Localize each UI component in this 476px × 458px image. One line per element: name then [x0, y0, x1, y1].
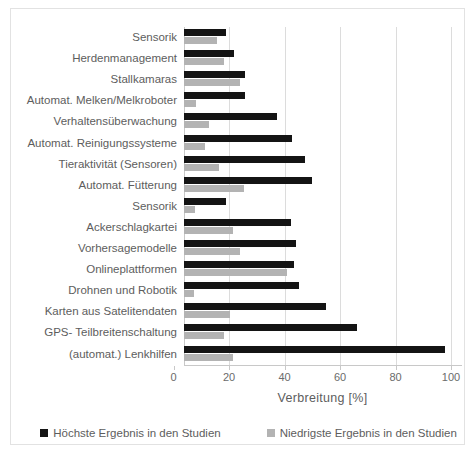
- category-label: Sensorik: [12, 196, 177, 217]
- bar-row: Stallkamaras: [11, 69, 476, 90]
- category-label: Onlineplattformen: [12, 259, 177, 280]
- chart-frame: SensorikHerdenmanagementStallkamarasAuto…: [10, 8, 465, 445]
- category-label: Tieraktivität (Sensoren): [12, 154, 177, 175]
- bar-lowest: [184, 290, 194, 297]
- bar-row: Karten aus Satelitendaten: [11, 301, 476, 322]
- chart-legend: Höchste Ergebnis in den StudienNiedrigst…: [21, 427, 476, 439]
- bar-lowest: [184, 185, 244, 192]
- bar-highest: [184, 198, 226, 205]
- bar-row: Drohnen und Robotik: [11, 280, 476, 301]
- x-axis-line: [184, 365, 462, 366]
- bar-row: Sensorik: [11, 27, 476, 48]
- category-label: GPS- Teilbreitenschaltung: [12, 322, 177, 343]
- bar-row: Verhaltensüberwachung: [11, 111, 476, 132]
- bar-highest: [184, 177, 312, 184]
- x-tick-label: 20: [223, 371, 235, 383]
- category-label: Karten aus Satelitendaten: [12, 301, 177, 322]
- bar-row: Automat. Fütterung: [11, 175, 476, 196]
- legend-item[interactable]: Höchste Ergebnis in den Studien: [40, 427, 221, 439]
- bar-highest: [184, 92, 245, 99]
- bar-lowest: [184, 37, 217, 44]
- category-label: Automat. Reinigungssysteme: [12, 133, 177, 154]
- legend-swatch-icon: [267, 429, 275, 437]
- bar-row: Vorhersagemodelle: [11, 238, 476, 259]
- bar-row: Onlineplattformen: [11, 259, 476, 280]
- bar-row: (automat.) Lenkhilfen: [11, 344, 476, 365]
- category-label: Sensorik: [12, 27, 177, 48]
- x-tick-label: 100: [442, 371, 460, 383]
- tick-mark-80: [396, 366, 397, 370]
- x-tick-label: 80: [389, 371, 401, 383]
- bar-lowest: [184, 354, 233, 361]
- x-axis-title: Verbreitung [%]: [184, 391, 462, 405]
- chart-container: SensorikHerdenmanagementStallkamarasAuto…: [0, 0, 476, 458]
- x-tick-label: 40: [278, 371, 290, 383]
- bar-highest: [184, 303, 326, 310]
- tick-mark-100: [451, 366, 452, 370]
- x-tick-label: 60: [334, 371, 346, 383]
- bar-lowest: [184, 332, 224, 339]
- bar-lowest: [184, 79, 240, 86]
- bar-lowest: [184, 143, 205, 150]
- bar-lowest: [184, 206, 195, 213]
- category-label: Stallkamaras: [12, 69, 177, 90]
- bar-row: Automat. Reinigungssysteme: [11, 133, 476, 154]
- bar-highest: [184, 71, 245, 78]
- bar-lowest: [184, 248, 240, 255]
- bar-lowest: [184, 100, 196, 107]
- bar-highest: [184, 50, 234, 57]
- bar-row: Automat. Melken/Melkroboter: [11, 90, 476, 111]
- category-label: (automat.) Lenkhilfen: [12, 344, 177, 365]
- bar-row: Tieraktivität (Sensoren): [11, 154, 476, 175]
- tick-mark-0: [174, 366, 175, 370]
- bar-highest: [184, 282, 299, 289]
- tick-mark-40: [285, 366, 286, 370]
- x-tick-label: 0: [170, 371, 176, 383]
- category-label: Automat. Fütterung: [12, 175, 177, 196]
- bar-highest: [184, 135, 292, 142]
- bar-lowest: [184, 58, 224, 65]
- bar-lowest: [184, 121, 209, 128]
- category-label: Automat. Melken/Melkroboter: [12, 90, 177, 111]
- bar-highest: [184, 346, 445, 353]
- category-label: Ackerschlagkartei: [12, 217, 177, 238]
- bar-lowest: [184, 227, 233, 234]
- bar-highest: [184, 29, 226, 36]
- legend-swatch-icon: [40, 429, 48, 437]
- bar-lowest: [184, 269, 287, 276]
- bar-highest: [184, 324, 357, 331]
- category-label: Vorhersagemodelle: [12, 238, 177, 259]
- bar-row: Sensorik: [11, 196, 476, 217]
- bar-highest: [184, 156, 305, 163]
- category-label: Drohnen und Robotik: [12, 280, 177, 301]
- bar-lowest: [184, 164, 219, 171]
- bar-row: Herdenmanagement: [11, 48, 476, 69]
- bar-row: Ackerschlagkartei: [11, 217, 476, 238]
- legend-label: Höchste Ergebnis in den Studien: [53, 427, 221, 439]
- category-label: Verhaltensüberwachung: [12, 111, 177, 132]
- bar-row: GPS- Teilbreitenschaltung: [11, 322, 476, 343]
- legend-label: Niedrigste Ergebnis in den Studien: [280, 427, 457, 439]
- bar-highest: [184, 240, 296, 247]
- category-label: Herdenmanagement: [12, 48, 177, 69]
- bar-lowest: [184, 311, 230, 318]
- legend-item[interactable]: Niedrigste Ergebnis in den Studien: [267, 427, 457, 439]
- tick-mark-20: [229, 366, 230, 370]
- tick-mark-60: [340, 366, 341, 370]
- bar-highest: [184, 113, 277, 120]
- bar-highest: [184, 219, 291, 226]
- bar-highest: [184, 261, 294, 268]
